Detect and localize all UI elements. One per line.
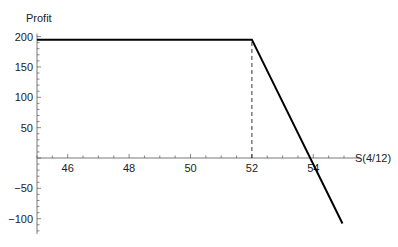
x-tick-label: 52 bbox=[246, 162, 258, 174]
y-axis-label: Profit bbox=[26, 12, 52, 24]
y-tick-label: 200 bbox=[15, 31, 33, 43]
y-tick-label: −50 bbox=[14, 182, 33, 194]
x-tick-label: 46 bbox=[62, 162, 74, 174]
y-tick-label: 50 bbox=[21, 122, 33, 134]
axes: 4648505254−100−5050100150200 bbox=[8, 31, 360, 234]
plot-area bbox=[37, 40, 342, 224]
x-axis-label: S(4/12) bbox=[355, 152, 391, 164]
y-tick-label: −100 bbox=[8, 213, 33, 225]
x-tick-label: 50 bbox=[184, 162, 196, 174]
x-tick-label: 48 bbox=[123, 162, 135, 174]
profit-line bbox=[37, 40, 342, 224]
y-tick-label: 100 bbox=[15, 91, 33, 103]
profit-chart: 4648505254−100−5050100150200 Profit S(4/… bbox=[0, 0, 398, 247]
y-tick-label: 150 bbox=[15, 61, 33, 73]
